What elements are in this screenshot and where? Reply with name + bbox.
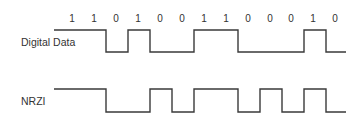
diagram-svg: 1101001100010 Digital Data NRZI <box>0 0 362 118</box>
bit-label: 1 <box>91 13 97 24</box>
bit-label: 0 <box>157 13 163 24</box>
nrzi-label: NRZI <box>21 95 46 107</box>
bit-label: 0 <box>332 13 338 24</box>
bit-label: 0 <box>245 13 251 24</box>
bit-label: 1 <box>69 13 75 24</box>
digital-data-waveform <box>54 30 346 52</box>
bit-labels: 1101001100010 <box>69 13 338 24</box>
bit-label: 0 <box>113 13 119 24</box>
digital-data-label: Digital Data <box>21 36 75 48</box>
bit-label: 0 <box>267 13 273 24</box>
bit-label: 0 <box>288 13 294 24</box>
bit-label: 1 <box>201 13 207 24</box>
nrzi-encoding-diagram: 1101001100010 Digital Data NRZI <box>0 0 362 118</box>
bit-label: 0 <box>179 13 185 24</box>
bit-label: 1 <box>135 13 141 24</box>
bit-label: 1 <box>310 13 316 24</box>
nrzi-waveform <box>54 89 346 112</box>
bit-label: 1 <box>223 13 229 24</box>
